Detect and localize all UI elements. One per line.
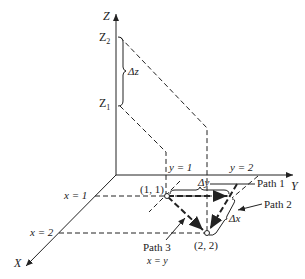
path3-diagonal (168, 197, 203, 230)
delta-y-label: Δy (198, 177, 209, 188)
path3-label: Path 3 (143, 242, 171, 253)
path1-label: Path 1 (257, 178, 285, 189)
z2-label: Z2 (99, 31, 110, 46)
delta-x-label: Δx (229, 213, 240, 224)
path2-leader (238, 204, 262, 210)
path2-label: Path 2 (264, 199, 292, 210)
y-axis-label: Y (291, 180, 298, 192)
z-axis-label: Z (103, 10, 110, 22)
point-1-1-label: (1, 1) (140, 184, 164, 195)
delta-z-label: Δz (128, 66, 139, 77)
point-2-2-label: (2, 2) (194, 240, 218, 251)
path3-leader (166, 218, 185, 240)
x1-label: x = 1 (64, 190, 87, 201)
y1-label: y = 1 (169, 162, 192, 173)
x-axis-label: X (14, 257, 21, 269)
delta-y-brace (170, 187, 229, 194)
x2-label: x = 2 (30, 227, 53, 238)
y2-label: y = 2 (230, 162, 253, 173)
point-1-1 (165, 194, 170, 199)
z1-label: Z1 (99, 97, 110, 112)
point-2-2 (205, 231, 210, 236)
delta-z-brace (118, 37, 126, 106)
path3-equation: x = y (147, 256, 168, 266)
